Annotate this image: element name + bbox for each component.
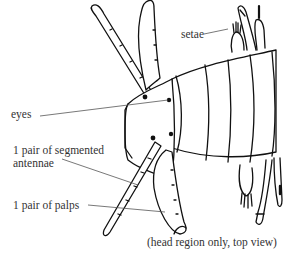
antennae-leader: [62, 159, 138, 185]
eye-dot: [151, 136, 156, 141]
eye-dot: [169, 132, 173, 136]
antennae-label-line1: 1 pair of segmented: [13, 144, 104, 156]
insect-head-diagram: setae eyes 1 pair of segmented antennae …: [0, 0, 295, 258]
palps-leader: [88, 205, 165, 212]
insect-drawing: [0, 0, 295, 258]
eye-dot: [143, 95, 148, 100]
figure-caption: (head region only, top view): [147, 236, 277, 248]
setae-label: setae: [181, 28, 204, 40]
setae-leader: [204, 29, 228, 34]
eyes-label: eyes: [11, 108, 31, 120]
upper-right-appendages: [231, 6, 265, 52]
palps-label: 1 pair of palps: [13, 199, 79, 211]
lower-palp: [154, 150, 187, 234]
body-segments: [172, 50, 276, 162]
antennae-label-line2: antennae: [13, 157, 54, 169]
lower-right-appendages: [239, 158, 282, 224]
